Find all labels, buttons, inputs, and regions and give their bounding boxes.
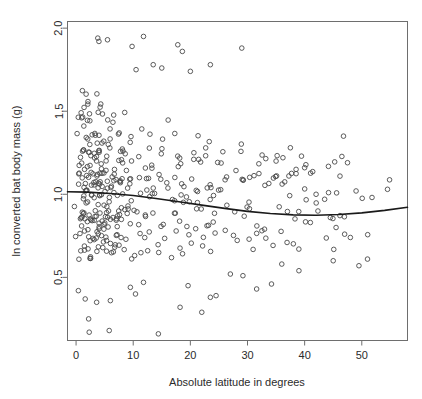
scatter-point — [128, 140, 133, 145]
scatter-point — [201, 235, 206, 240]
scatter-point — [151, 211, 156, 216]
scatter-point — [164, 180, 169, 185]
scatter-point — [180, 49, 185, 54]
scatter-point — [274, 159, 279, 164]
scatter-point — [293, 217, 298, 222]
x-tick-label: 0 — [73, 349, 79, 361]
scatter-point — [326, 190, 331, 195]
scatter-point — [145, 248, 150, 253]
scatter-point — [133, 292, 138, 297]
scatter-point — [79, 224, 84, 229]
scatter-point — [84, 92, 89, 97]
scatter-point — [342, 214, 347, 219]
scatter-point — [186, 283, 191, 288]
scatter-point — [86, 317, 91, 322]
scatter-point — [239, 46, 244, 51]
scatter-point — [340, 154, 345, 159]
scatter-point — [214, 293, 219, 298]
scatter-point — [104, 154, 109, 159]
scatter-point — [322, 197, 327, 202]
scatter-point — [132, 253, 137, 258]
scatter-point — [107, 328, 112, 333]
scatter-point — [239, 142, 244, 147]
scatter-point — [98, 211, 103, 216]
scatter-point — [247, 200, 252, 205]
scatter-point — [297, 247, 302, 252]
x-axis-title: Absolute latitude in degrees — [169, 376, 305, 388]
scatter-point — [257, 171, 262, 176]
scatter-point — [96, 245, 101, 250]
scatter-point — [289, 171, 294, 176]
scatter-point — [104, 249, 109, 254]
scatter-point — [128, 285, 133, 290]
scatter-point — [203, 146, 208, 151]
scatter-point — [252, 173, 257, 178]
y-axis: 0.51.01.52.0 — [53, 20, 68, 285]
scatter-point — [173, 175, 178, 180]
scatter-point — [193, 226, 198, 231]
scatter-point — [82, 105, 87, 110]
scatter-point — [208, 62, 213, 67]
scatter-point — [342, 232, 347, 237]
scatter-point — [179, 193, 184, 198]
scatter-point — [108, 127, 113, 132]
scatter-point — [129, 159, 134, 164]
scatter-point — [260, 153, 265, 158]
y-tick-label: 2.0 — [53, 20, 65, 35]
scatter-point — [122, 247, 127, 252]
data-points — [72, 34, 392, 336]
scatter-point — [287, 193, 292, 198]
scatter-point — [211, 220, 216, 225]
scatter-point — [115, 224, 120, 229]
scatter-point — [234, 168, 239, 173]
scatter-point — [151, 62, 156, 67]
scatter-point — [99, 162, 104, 167]
scatter-point — [95, 141, 100, 146]
scatter-point — [370, 195, 375, 200]
scatter-point — [341, 134, 346, 139]
scatter-point — [81, 148, 86, 153]
y-tick-label: 1.5 — [53, 104, 65, 119]
scatter-point — [141, 34, 146, 39]
scatter-point — [125, 211, 130, 216]
scatter-point — [78, 231, 83, 236]
scatter-point — [177, 219, 182, 224]
scatter-point — [207, 139, 212, 144]
scatter-point — [107, 195, 112, 200]
x-tick-label: 50 — [356, 349, 368, 361]
x-tick-label: 40 — [299, 349, 311, 361]
scatter-point — [95, 92, 100, 97]
scatter-point — [166, 186, 171, 191]
scatter-point — [159, 177, 164, 182]
scatter-point — [122, 110, 127, 115]
scatter-point — [225, 203, 230, 208]
scatter-point — [196, 133, 201, 138]
scatter-point — [174, 229, 179, 234]
scatter-point — [162, 236, 167, 241]
scatter-point — [175, 42, 180, 47]
scatter-point — [138, 191, 143, 196]
scatter-point — [76, 288, 81, 293]
scatter-point — [241, 273, 246, 278]
scatter-point — [141, 280, 146, 285]
scatter-point — [212, 211, 217, 216]
scatter-point — [365, 257, 370, 262]
scatter-point — [106, 225, 111, 230]
scatter-point — [178, 161, 183, 166]
scatter-point — [100, 112, 105, 117]
scatter-point — [360, 196, 365, 201]
scatter-point — [138, 231, 143, 236]
scatter-point — [285, 209, 290, 214]
scatter-point — [147, 230, 152, 235]
scatter-point — [357, 263, 362, 268]
scatter-point — [279, 262, 284, 267]
scatter-point — [148, 132, 153, 137]
scatter-point — [285, 240, 290, 245]
scatter-point — [96, 202, 101, 207]
scatter-point — [299, 154, 304, 159]
y-tick-label: 0.5 — [53, 270, 65, 285]
scatter-point — [166, 118, 171, 123]
scatter-point — [147, 146, 152, 151]
scatter-point — [194, 207, 199, 212]
scatter-point — [264, 236, 269, 241]
